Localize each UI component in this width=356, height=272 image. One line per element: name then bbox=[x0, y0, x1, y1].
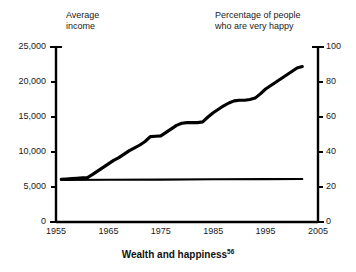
y2-tick-label: 100 bbox=[326, 41, 356, 51]
x-tick-label: 1965 bbox=[88, 226, 128, 236]
y2-tick-label: 80 bbox=[326, 76, 356, 86]
chart-caption: Wealth and happiness56 bbox=[0, 248, 356, 260]
left-axis-header: Average income bbox=[66, 10, 99, 32]
y-tick-label: 15,000 bbox=[0, 111, 46, 121]
y-tick-label: 10,000 bbox=[0, 146, 46, 156]
y-tick-label: 25,000 bbox=[0, 41, 46, 51]
caption-note: 56 bbox=[227, 248, 234, 255]
y-tick-label: 5,000 bbox=[0, 181, 46, 191]
y2-tick-label: 60 bbox=[326, 111, 356, 121]
x-tick-label: 2005 bbox=[298, 226, 338, 236]
series-line-happiness bbox=[61, 179, 302, 180]
axes-frame bbox=[50, 47, 324, 222]
series-line-income bbox=[61, 67, 302, 180]
caption-text: Wealth and happiness bbox=[122, 249, 227, 260]
x-tick-label: 1995 bbox=[246, 226, 286, 236]
chart-figure: Average income Percentage of people who … bbox=[0, 0, 356, 272]
y2-tick-label: 0 bbox=[326, 216, 356, 226]
right-axis-header: Percentage of people who are very happy bbox=[215, 10, 301, 32]
y-tick-label: 20,000 bbox=[0, 76, 46, 86]
y2-tick-label: 20 bbox=[326, 181, 356, 191]
y-tick-label: 0 bbox=[0, 216, 46, 226]
x-tick-label: 1985 bbox=[193, 226, 233, 236]
y2-tick-label: 40 bbox=[326, 146, 356, 156]
x-tick-label: 1975 bbox=[141, 226, 181, 236]
x-tick-label: 1955 bbox=[36, 226, 76, 236]
